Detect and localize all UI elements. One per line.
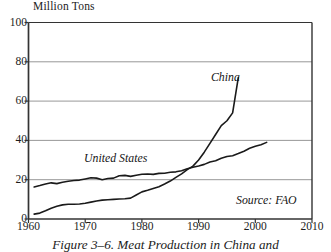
x-axis-tick-1990: 1990	[182, 221, 216, 233]
x-axis-tick-1970: 1970	[68, 221, 102, 233]
series-label-china: China	[211, 70, 240, 85]
x-axis-tick-2010: 2010	[295, 221, 329, 233]
series-line-united-states	[34, 142, 266, 187]
x-axis-tick-2000: 2000	[238, 221, 272, 233]
source-note: Source: FAO	[236, 193, 297, 208]
x-axis-tick-1960: 1960	[12, 221, 46, 233]
figure-caption: Figure 3–6. Meat Production in China and	[0, 237, 331, 252]
series-line-china	[34, 78, 238, 215]
x-axis-tick-1980: 1980	[125, 221, 159, 233]
series-label-united-states: United States	[84, 151, 147, 166]
